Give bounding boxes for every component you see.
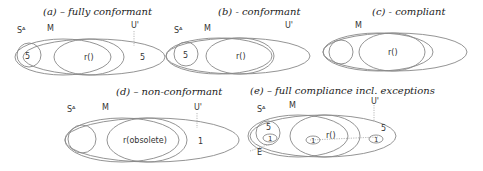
sa-count: 5 bbox=[25, 52, 30, 61]
panel-b-title: (b) - conformant bbox=[218, 6, 301, 17]
u-label: U' bbox=[131, 21, 139, 30]
exception-count-sa: 1 bbox=[268, 135, 272, 143]
m-set bbox=[166, 38, 272, 74]
exception-count-r: 1 bbox=[311, 137, 315, 145]
m-label: M bbox=[47, 24, 54, 33]
u-count: 5 bbox=[381, 124, 386, 133]
panel-d-title: (d) – non-conformant bbox=[116, 86, 223, 97]
sa-label: Sᴬ bbox=[257, 105, 266, 114]
sa-set bbox=[329, 40, 353, 64]
r-label: r() bbox=[326, 131, 336, 140]
m-label: M bbox=[289, 101, 296, 110]
panel-c-title: (c) - compliant bbox=[372, 6, 446, 17]
m-set bbox=[323, 33, 433, 71]
m-label: M bbox=[204, 24, 211, 33]
compliance-venn-diagrams: (a) – fully conformant Sᴬ M U' r() 5 5 (… bbox=[0, 0, 483, 171]
sa-label: Sᴬ bbox=[17, 26, 26, 35]
u-label: U' bbox=[371, 97, 379, 106]
m-label: M bbox=[102, 103, 109, 112]
panel-e-title: (e) – full compliance incl. exceptions bbox=[250, 85, 435, 96]
e-label: E bbox=[257, 148, 262, 157]
panel-a-title: (a) – fully conformant bbox=[43, 6, 153, 17]
r-label: r() bbox=[84, 53, 94, 62]
panel-c: (c) - compliant M r() bbox=[323, 6, 467, 71]
r-label: r(obsolete) bbox=[123, 136, 167, 145]
u-count: 5 bbox=[140, 53, 145, 62]
sa-count: 5 bbox=[266, 123, 271, 132]
r-set bbox=[290, 115, 360, 157]
r-label: r() bbox=[236, 52, 246, 61]
u-label: U' bbox=[194, 103, 202, 112]
panel-b: (b) - conformant Sᴬ M U' r() 5 bbox=[166, 6, 310, 74]
panel-d: (d) – non-conformant Sᴬ M U' r(obsolete)… bbox=[65, 86, 239, 162]
u-count: 1 bbox=[198, 137, 203, 146]
r-label: r() bbox=[388, 48, 398, 57]
panel-a: (a) – fully conformant Sᴬ M U' r() 5 5 bbox=[15, 6, 165, 75]
panel-e: (e) – full compliance incl. exceptions S… bbox=[248, 85, 435, 157]
exception-count-u: 1 bbox=[374, 136, 378, 144]
sa-label: Sᴬ bbox=[67, 105, 76, 114]
sa-label: Sᴬ bbox=[174, 26, 183, 35]
u-label: U' bbox=[285, 21, 293, 30]
sa-count: 5 bbox=[183, 51, 188, 60]
sa-set bbox=[68, 125, 96, 153]
m-label: M bbox=[355, 21, 362, 30]
